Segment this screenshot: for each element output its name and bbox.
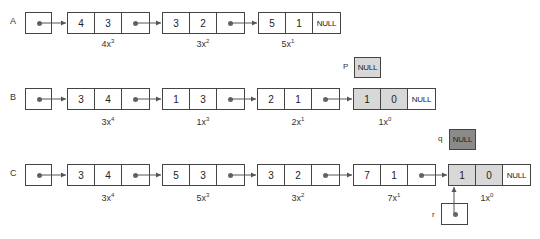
arrows-layer (0, 0, 540, 239)
